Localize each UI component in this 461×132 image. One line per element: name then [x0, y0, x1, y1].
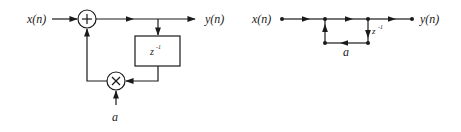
sfg-node-feedback — [323, 41, 327, 45]
sfg-output-label: y(n) — [419, 12, 439, 26]
multiplier — [107, 72, 125, 90]
block-diagram: x(n) y(n) z -1 a — [26, 10, 224, 124]
sfg-delay-label: z — [371, 26, 376, 36]
delay-box — [135, 36, 180, 66]
sfg-input-label: x(n) — [251, 12, 271, 26]
signal-flow-graph: x(n) z -1 a y(n) — [251, 12, 439, 59]
sfg-node-sum — [323, 17, 327, 21]
sfg-node-input — [280, 17, 284, 21]
delay-block: z -1 — [135, 36, 180, 66]
delay-label: z — [149, 46, 154, 57]
delay-exponent: -1 — [156, 44, 161, 50]
sfg-node-delayed — [366, 41, 370, 45]
block-output-label: y(n) — [204, 12, 224, 26]
sfg-delay-exponent: -1 — [378, 24, 383, 30]
diagram-canvas: x(n) y(n) z -1 a — [0, 0, 461, 132]
sfg-node-tap — [366, 17, 370, 21]
adder — [78, 10, 96, 28]
block-input-label: x(n) — [26, 12, 46, 26]
block-coefficient-label: a — [112, 110, 118, 124]
sfg-node-output — [410, 17, 414, 21]
delay-to-multiplier-arrow — [126, 66, 158, 81]
feedback-arrow — [87, 29, 107, 81]
sfg-coefficient-label: a — [343, 45, 349, 59]
